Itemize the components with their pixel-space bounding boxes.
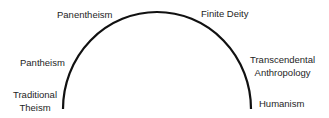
label-traditional-theism-line2: Theism	[13, 101, 57, 114]
label-transcendental-line1: Transcendental	[250, 53, 315, 66]
label-traditional-theism-line1: Traditional	[13, 88, 57, 101]
label-pantheism: Pantheism	[20, 56, 65, 69]
label-traditional-theism: Traditional Theism	[13, 88, 57, 114]
label-transcendental-anthropology: Transcendental Anthropology	[250, 53, 315, 79]
label-finite-deity: Finite Deity	[201, 7, 249, 20]
label-panentheism: Panentheism	[57, 8, 112, 21]
label-humanism: Humanism	[259, 97, 304, 110]
label-transcendental-line2: Anthropology	[250, 66, 315, 79]
